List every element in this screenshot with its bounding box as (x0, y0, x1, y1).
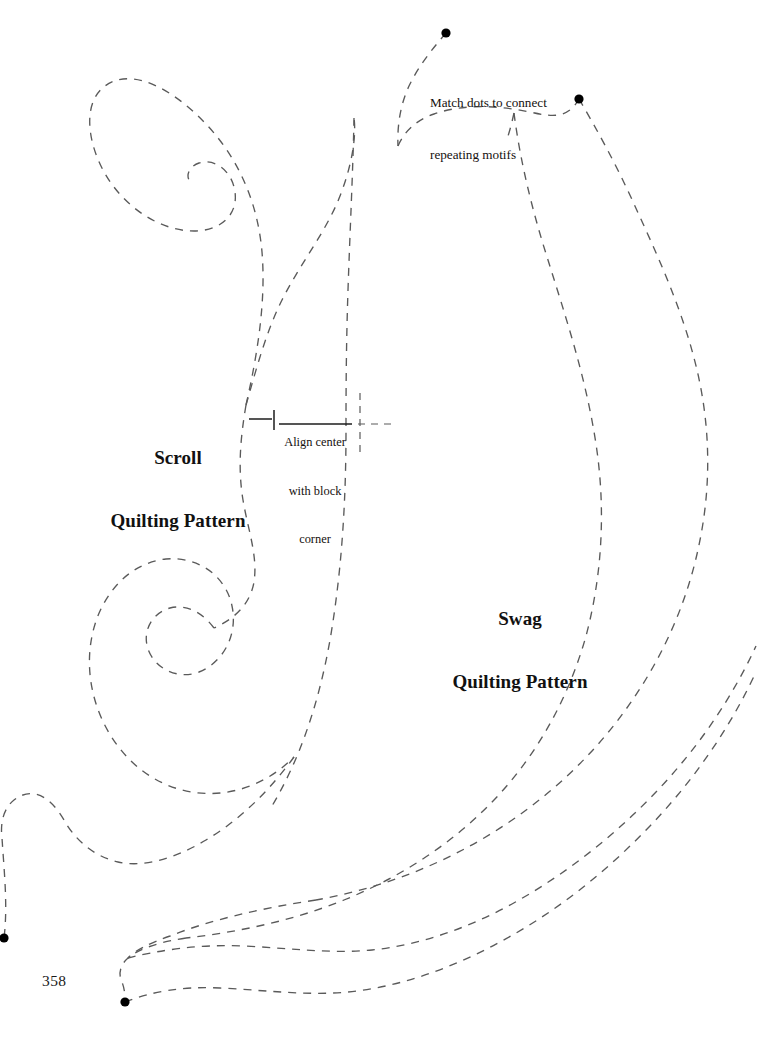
swag-title-line-1: Swag (447, 608, 593, 629)
match-note-line-1: Match dots to connect (430, 94, 600, 111)
pattern-page: Scroll Quilting Pattern Swag Quilting Pa… (0, 0, 760, 1040)
swag-pattern-title: Swag Quilting Pattern (447, 565, 593, 735)
match-dots-note: Match dots to connect repeating motifs (430, 60, 600, 197)
align-note-line-1: Align center (277, 434, 353, 450)
align-note-line-3: corner (277, 531, 353, 547)
swag-title-line-2: Quilting Pattern (447, 671, 593, 692)
scroll-pattern-title: Scroll Quilting Pattern (108, 404, 248, 574)
swag-lower-inner-sweep (120, 938, 186, 1002)
align-center-note: Align center with block corner (277, 402, 353, 579)
scroll-title-line-1: Scroll (108, 447, 248, 468)
scroll-outer-spiral-lower (89, 559, 294, 794)
swag-bottom-inner-return (125, 672, 756, 1002)
match-note-line-2: repeating motifs (430, 146, 600, 163)
page-number: 358 (42, 972, 66, 989)
align-note-line-2: with block (277, 483, 353, 499)
scroll-outer-spiral-upper (90, 79, 263, 405)
swag-bottom-outer-return (128, 646, 756, 958)
swag-lower-outer-sweep (128, 900, 316, 958)
scroll-title-line-2: Quilting Pattern (108, 510, 248, 531)
bottom-match-dot (120, 997, 129, 1006)
left-edge-match-dot (0, 933, 9, 942)
scroll-inner-curve-upper (246, 118, 355, 405)
scroll-lower-tail-to-left-dot (2, 757, 295, 938)
top-match-dot (441, 28, 450, 37)
